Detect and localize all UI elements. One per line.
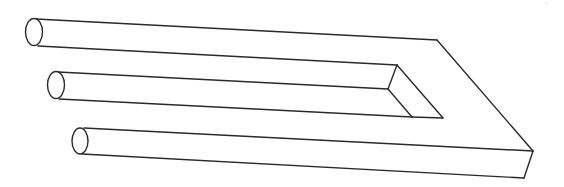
speck-artifact: [546, 2, 547, 3]
top-prong-upper-edge: [36, 19, 437, 40]
impossible-trident-drawing: [0, 0, 564, 187]
top-prong-end-cap: [26, 19, 43, 46]
top-prong-lower-edge: [38, 46, 397, 65]
middle-prong: [48, 72, 413, 118]
bottom-prong-end-cap: [72, 128, 88, 154]
bottom-prong-upper-edge: [84, 128, 533, 151]
middle-prong-end-cap: [48, 72, 65, 99]
base-block: [388, 40, 533, 178]
middle-prong-lower-edge: [59, 99, 412, 117]
notch-left-face-edge: [388, 65, 397, 89]
top-prong: [26, 19, 438, 66]
notch-slant-edge-outer: [397, 65, 443, 118]
middle-prong-upper-edge: [58, 72, 388, 89]
illusion-canvas: Impossible trident (blivet) illusion: [0, 0, 564, 187]
base-right-face-edge: [524, 151, 533, 178]
notch-bottom-edge: [412, 117, 443, 118]
bottom-prong-lower-edge: [82, 154, 524, 178]
base-outer-slant-edge: [437, 40, 533, 151]
bottom-prong: [72, 128, 533, 178]
notch-slant-edge-inner: [388, 89, 412, 117]
